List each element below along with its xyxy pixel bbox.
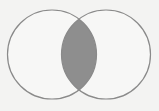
venn-diagram (0, 0, 159, 111)
